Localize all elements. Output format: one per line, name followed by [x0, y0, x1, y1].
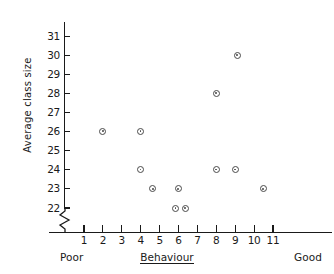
x-tick-label: 1 — [75, 235, 93, 246]
x-tick-label: 6 — [170, 235, 188, 246]
data-point — [182, 205, 189, 212]
scatter-plot: 22232425262728293031 1234567891011 Avera… — [0, 0, 334, 274]
data-point — [149, 185, 156, 192]
x-axis-title-text: Behaviour — [140, 251, 193, 264]
x-tick-label: 2 — [94, 235, 112, 246]
data-point — [213, 90, 220, 97]
x-tick — [254, 225, 255, 233]
x-tick-label: 10 — [245, 235, 263, 246]
y-tick-label: 23 — [22, 183, 60, 194]
data-point — [234, 52, 241, 59]
x-tick-label: 5 — [151, 235, 169, 246]
x-tick — [216, 225, 217, 233]
y-tick — [64, 207, 70, 208]
y-tick-label-wrap: 23 — [16, 183, 60, 194]
data-point — [99, 128, 106, 135]
x-tick — [140, 225, 141, 233]
y-tick — [64, 112, 70, 113]
y-tick — [64, 131, 70, 132]
x-tick-label: 9 — [226, 235, 244, 246]
y-tick — [64, 188, 70, 189]
x-tick — [272, 225, 273, 233]
y-axis-title: Average class size — [23, 30, 33, 180]
data-point — [213, 166, 220, 173]
y-tick — [64, 93, 70, 94]
x-tick — [178, 225, 179, 233]
data-point — [260, 185, 267, 192]
data-point — [232, 166, 239, 173]
data-point — [175, 185, 182, 192]
x-tick — [83, 225, 84, 233]
data-point — [137, 128, 144, 135]
x-tick-label: 7 — [188, 235, 206, 246]
x-axis-line — [49, 232, 332, 233]
y-tick — [64, 55, 70, 56]
y-tick — [64, 36, 70, 37]
x-axis-title: Behaviour — [0, 252, 334, 263]
y-tick — [64, 74, 70, 75]
x-tick — [121, 225, 122, 233]
y-tick-label: 22 — [22, 203, 60, 214]
y-axis-break-icon — [58, 207, 72, 233]
x-axis-high-label: Good — [294, 252, 322, 263]
data-point — [172, 205, 179, 212]
x-tick — [159, 225, 160, 233]
x-tick — [102, 225, 103, 233]
y-tick-label-wrap: 22 — [16, 203, 60, 214]
data-point — [137, 166, 144, 173]
x-tick-label: 8 — [207, 235, 225, 246]
y-axis-line — [64, 22, 65, 209]
x-tick — [197, 225, 198, 233]
y-tick — [64, 150, 70, 151]
x-tick-label: 3 — [113, 235, 131, 246]
x-tick-label: 11 — [264, 235, 282, 246]
y-tick — [64, 169, 70, 170]
x-tick-label: 4 — [132, 235, 150, 246]
x-tick — [235, 225, 236, 233]
